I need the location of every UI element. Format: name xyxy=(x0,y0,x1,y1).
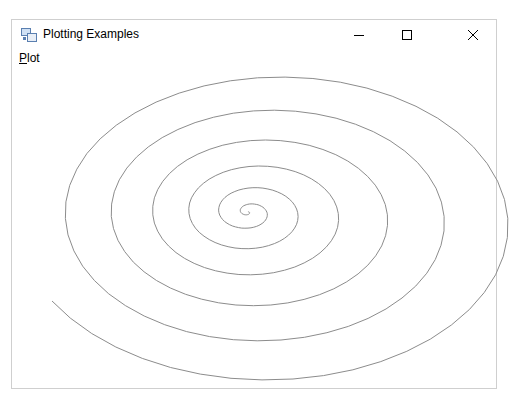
spiral-curve xyxy=(52,77,508,380)
plot-canvas xyxy=(0,0,513,400)
